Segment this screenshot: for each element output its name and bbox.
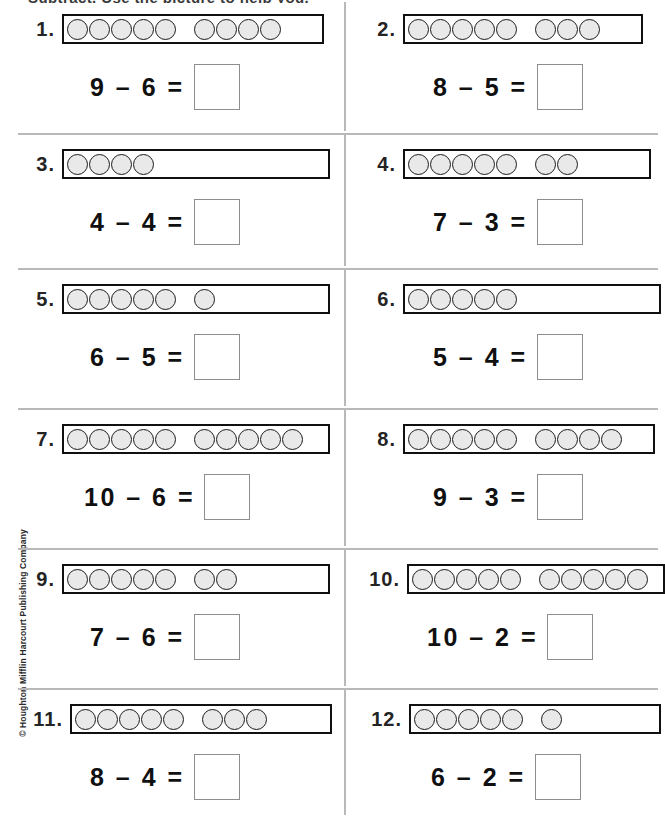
answer-input-box[interactable] <box>537 474 583 520</box>
counter-circle-icon <box>67 19 88 40</box>
counter-group <box>541 709 563 730</box>
equation-row: 7 – 6 = <box>90 614 240 660</box>
counter-strip <box>403 14 643 44</box>
counter-circle-icon <box>430 154 451 175</box>
problem-number: 9. <box>18 569 62 589</box>
equation-row: 4 – 4 = <box>90 199 240 245</box>
equation-row: 8 – 4 = <box>90 754 240 800</box>
counter-strip <box>403 284 661 314</box>
counter-circle-icon <box>605 569 626 590</box>
equation-row: 7 – 3 = <box>433 199 583 245</box>
counter-circle-icon <box>133 19 154 40</box>
counter-circle-icon <box>601 429 622 450</box>
counter-group <box>408 429 518 450</box>
problem-number: 7. <box>18 429 62 449</box>
counter-circle-icon <box>535 19 556 40</box>
counter-circle-icon <box>474 289 495 310</box>
counter-strip <box>62 424 330 454</box>
equation-row: 6 – 5 = <box>90 334 240 380</box>
answer-input-box[interactable] <box>194 334 240 380</box>
counter-circle-icon <box>474 154 495 175</box>
problem-cell: 2.8 – 5 = <box>345 2 665 137</box>
equation-text: 10 – 2 = <box>427 625 538 650</box>
counter-circle-icon <box>133 289 154 310</box>
answer-input-box[interactable] <box>535 754 581 800</box>
counter-circle-icon <box>194 429 215 450</box>
counter-group <box>194 569 238 590</box>
counter-group <box>408 289 518 310</box>
row-divider-4 <box>18 548 658 550</box>
equation-row: 9 – 3 = <box>433 474 583 520</box>
counter-group <box>535 429 623 450</box>
counter-circle-icon <box>260 429 281 450</box>
answer-input-box[interactable] <box>194 754 240 800</box>
counter-group <box>535 19 601 40</box>
counter-circle-icon <box>67 154 88 175</box>
counter-circle-icon <box>480 709 501 730</box>
counter-circle-icon <box>111 289 132 310</box>
counter-circle-icon <box>224 709 245 730</box>
counter-circle-icon <box>89 289 110 310</box>
answer-input-box[interactable] <box>547 614 593 660</box>
counter-group <box>67 569 177 590</box>
counter-strip-row: 5. <box>18 284 330 314</box>
answer-input-box[interactable] <box>194 64 240 110</box>
answer-input-box[interactable] <box>194 199 240 245</box>
problem-cell: 9.7 – 6 = <box>0 552 330 687</box>
problem-cell: 12.6 – 2 = <box>345 692 665 817</box>
counter-circle-icon <box>430 19 451 40</box>
answer-input-box[interactable] <box>204 474 250 520</box>
row-divider-5 <box>18 688 658 690</box>
counter-circle-icon <box>194 569 215 590</box>
counter-circle-icon <box>436 709 457 730</box>
counter-circle-icon <box>282 429 303 450</box>
problem-cell: 5.6 – 5 = <box>0 272 330 407</box>
equation-text: 7 – 3 = <box>433 210 528 235</box>
problem-cell: 11.8 – 4 = <box>0 692 330 817</box>
counter-strip-row: 8. <box>359 424 655 454</box>
counter-circle-icon <box>75 709 96 730</box>
counter-circle-icon <box>474 429 495 450</box>
equation-row: 10 – 6 = <box>84 474 250 520</box>
counter-circle-icon <box>67 429 88 450</box>
counter-group <box>67 154 155 175</box>
counter-group <box>67 429 177 450</box>
counter-group <box>67 289 177 310</box>
counter-circle-icon <box>414 709 435 730</box>
answer-input-box[interactable] <box>537 64 583 110</box>
counter-circle-icon <box>67 569 88 590</box>
problem-cell: 8.9 – 3 = <box>345 412 665 547</box>
counter-strip-row: 2. <box>359 14 643 44</box>
problem-number: 3. <box>18 154 62 174</box>
counter-circle-icon <box>496 429 517 450</box>
problem-number: 11. <box>18 709 70 729</box>
counter-strip <box>403 149 651 179</box>
counter-circle-icon <box>579 429 600 450</box>
counter-circle-icon <box>238 19 259 40</box>
problem-number: 8. <box>359 429 403 449</box>
equation-text: 4 – 4 = <box>90 210 185 235</box>
equation-text: 6 – 5 = <box>90 345 185 370</box>
equation-text: 8 – 5 = <box>433 75 528 100</box>
counter-circle-icon <box>535 154 556 175</box>
counter-strip <box>70 704 332 734</box>
answer-input-box[interactable] <box>194 614 240 660</box>
counter-circle-icon <box>216 19 237 40</box>
equation-text: 8 – 4 = <box>90 765 185 790</box>
counter-circle-icon <box>627 569 648 590</box>
problem-cell: 1.9 – 6 = <box>0 2 330 137</box>
answer-input-box[interactable] <box>537 334 583 380</box>
answer-input-box[interactable] <box>537 199 583 245</box>
counter-circle-icon <box>155 429 176 450</box>
counter-circle-icon <box>133 429 154 450</box>
counter-circle-icon <box>474 19 495 40</box>
counter-circle-icon <box>194 289 215 310</box>
counter-strip-row: 6. <box>359 284 661 314</box>
counter-circle-icon <box>141 709 162 730</box>
counter-strip <box>409 704 661 734</box>
equation-text: 7 – 6 = <box>90 625 185 650</box>
counter-group <box>408 154 518 175</box>
counter-group <box>414 709 524 730</box>
counter-circle-icon <box>557 429 578 450</box>
counter-circle-icon <box>119 709 140 730</box>
